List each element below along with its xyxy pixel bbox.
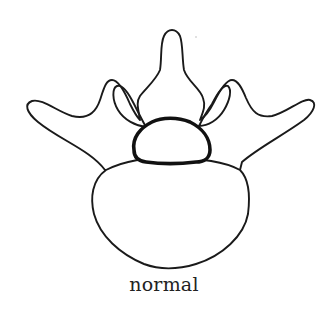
scan-speck	[195, 36, 197, 38]
vertebral-body	[92, 158, 249, 269]
vertebra-diagram	[0, 0, 328, 310]
figure-caption: normal	[0, 273, 328, 295]
